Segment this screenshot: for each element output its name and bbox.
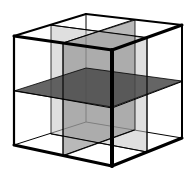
cube-diagram: Cube divided by three orthogonal mid-pla…	[0, 0, 193, 179]
cube-svg	[0, 0, 193, 179]
horizontal-mid-plane	[14, 68, 182, 107]
